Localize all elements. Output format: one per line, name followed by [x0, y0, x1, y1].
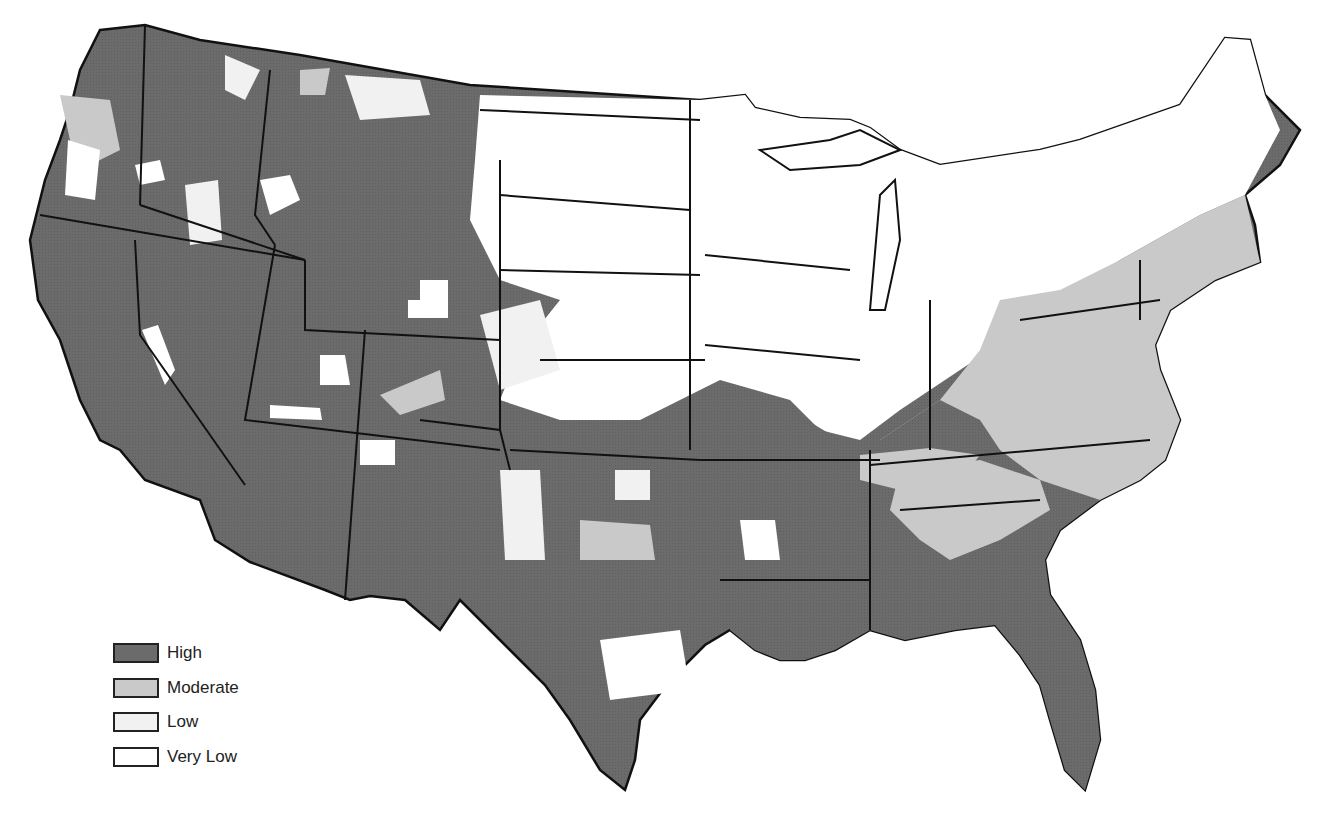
legend-swatch-moderate — [113, 678, 159, 698]
legend-label-high: High — [167, 643, 202, 663]
legend-swatch-low — [113, 712, 159, 732]
legend-item-low: Low — [113, 705, 239, 740]
legend-item-high: High — [113, 636, 239, 671]
legend-swatch-high — [113, 643, 159, 663]
legend-label-moderate: Moderate — [167, 678, 239, 698]
map-legend: High Moderate Low Very Low — [113, 636, 239, 774]
legend-swatch-very-low — [113, 747, 159, 767]
legend-label-very-low: Very Low — [167, 747, 237, 767]
legend-item-very-low: Very Low — [113, 740, 239, 775]
legend-label-low: Low — [167, 712, 198, 732]
legend-item-moderate: Moderate — [113, 671, 239, 706]
